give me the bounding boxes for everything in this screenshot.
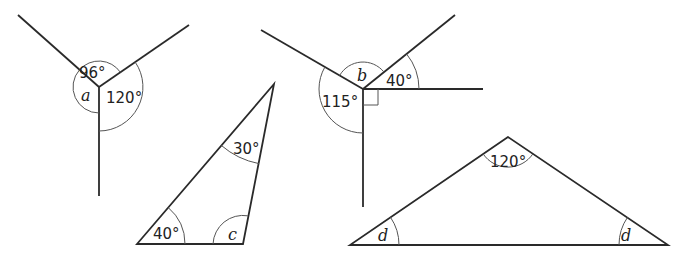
angle-diagram: 96° a 120° 30° 40° c b 40° 115° (0, 0, 681, 262)
label-a: a (81, 86, 91, 105)
arc-d-left (391, 217, 400, 245)
figure-angles-b: b 40° 115° (261, 15, 483, 207)
ray-upper-left (261, 30, 363, 89)
figure-triangle-d: 120° d d (350, 137, 668, 245)
label-115: 115° (322, 93, 358, 111)
label-120-apex: 120° (490, 153, 526, 171)
right-angle-marker (363, 89, 378, 105)
label-b: b (357, 66, 367, 85)
figure-triangle-c: 30° 40° c (137, 84, 274, 244)
label-40: 40° (386, 72, 413, 90)
ray-upper-right (99, 25, 189, 87)
label-40-triangle: 40° (153, 225, 180, 243)
figure-angles-a: 96° a 120° (18, 15, 189, 196)
label-120: 120° (106, 89, 142, 107)
label-30: 30° (233, 140, 260, 158)
label-d-right: d (621, 226, 631, 245)
triangle-c-shape (137, 84, 274, 244)
label-c: c (228, 225, 237, 244)
label-d-left: d (378, 226, 388, 245)
label-96: 96° (79, 64, 106, 82)
